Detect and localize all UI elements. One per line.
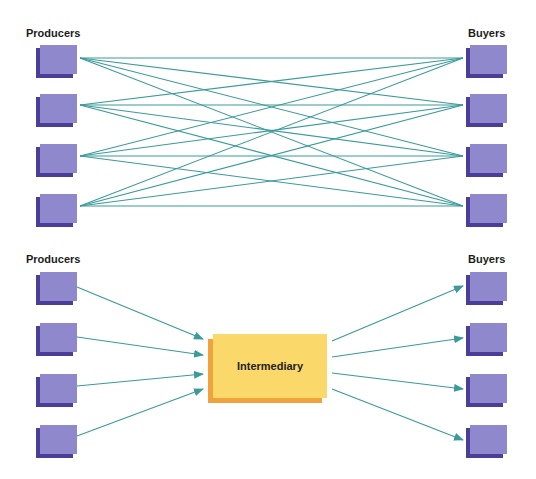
top-buyer-box-2 bbox=[470, 94, 507, 123]
bottom-buyer-box-3 bbox=[470, 374, 507, 403]
bottom-producer-box-3 bbox=[40, 374, 77, 403]
bottom-producers-label: Producers bbox=[26, 253, 80, 265]
intermediary-box: Intermediary bbox=[213, 334, 327, 398]
top-producer-box-1 bbox=[40, 45, 77, 74]
bottom-buyer-box-1 bbox=[470, 272, 507, 301]
top-mesh-lines bbox=[80, 58, 463, 206]
intermediary-label: Intermediary bbox=[237, 360, 303, 372]
bottom-producer-box-2 bbox=[40, 323, 77, 352]
bottom-producer-box-1 bbox=[40, 272, 77, 301]
bottom-buyer-box-4 bbox=[470, 425, 507, 454]
bottom-buyer-box-2 bbox=[470, 323, 507, 352]
bottom-buyers-label: Buyers bbox=[468, 253, 505, 265]
top-buyer-box-3 bbox=[470, 144, 507, 173]
connection-lines bbox=[0, 0, 536, 479]
top-producer-box-2 bbox=[40, 94, 77, 123]
top-buyer-box-4 bbox=[470, 194, 507, 223]
top-buyer-box-1 bbox=[470, 45, 507, 74]
top-producer-box-4 bbox=[40, 194, 77, 223]
top-producer-box-3 bbox=[40, 144, 77, 173]
bottom-producer-box-4 bbox=[40, 425, 77, 454]
